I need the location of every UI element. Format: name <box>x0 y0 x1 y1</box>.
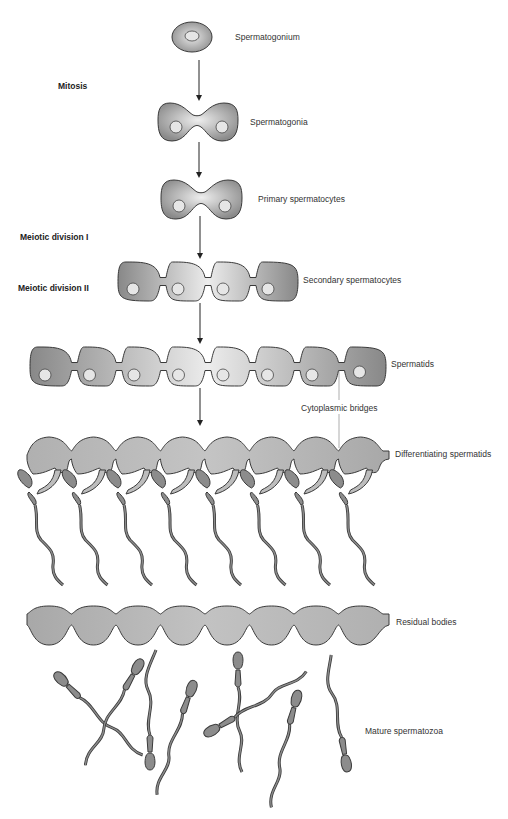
spermatozoon <box>78 657 147 766</box>
label-spermatids: Spermatids <box>391 359 434 369</box>
stage-label-mitosis: Mitosis <box>58 81 88 91</box>
primary-spermatocytes-cells <box>161 180 242 219</box>
nucleus <box>39 369 51 381</box>
label-secondary-spermatocytes: Secondary spermatocytes <box>303 275 401 285</box>
spermatozoon <box>149 679 199 795</box>
label-differentiating-spermatids: Differentiating spermatids <box>395 449 491 459</box>
nucleus <box>354 366 366 378</box>
nucleus <box>262 369 274 381</box>
stage-label-meiotic-division-2: Meiotic division II <box>18 283 89 293</box>
label-cytoplasmic-bridges: Cytoplasmic bridges <box>301 403 378 413</box>
secondary-spermatocytes-outline <box>118 262 298 301</box>
differentiating-spermatid <box>107 470 152 585</box>
differentiating-spermatid <box>151 470 196 585</box>
label-spermatogonia: Spermatogonia <box>250 117 308 127</box>
nucleus <box>173 369 185 381</box>
label-residual-bodies: Residual bodies <box>396 617 456 627</box>
nucleus <box>128 369 140 381</box>
nucleus <box>172 283 184 295</box>
differentiating-spermatid <box>18 470 63 585</box>
secondary-spermatocytes-cells <box>118 262 298 301</box>
spermatogenesis-diagram: Mitosis Meiotic division I Meiotic divis… <box>0 0 508 819</box>
nucleus <box>217 283 229 295</box>
residual-bodies-band <box>27 606 389 645</box>
differentiating-spermatid <box>62 470 107 585</box>
differentiating-spermatid <box>329 470 374 585</box>
nucleus <box>217 369 229 381</box>
spermatogonia-cells <box>158 103 238 141</box>
nucleus <box>306 369 318 381</box>
label-primary-spermatocytes: Primary spermatocytes <box>258 194 345 204</box>
spermatids-outline <box>30 347 386 386</box>
differentiating-band <box>27 437 389 474</box>
differentiating-spermatids <box>18 437 389 585</box>
label-mature-spermatozoa: Mature spermatozoa <box>365 726 443 736</box>
spermatozoon <box>322 655 352 773</box>
nucleus <box>127 283 139 295</box>
spermatozoon <box>263 689 304 807</box>
stage-label-meiotic-division-1: Meiotic division I <box>20 232 88 242</box>
mature-spermatozoa <box>51 650 352 808</box>
differentiating-spermatid <box>240 470 285 585</box>
nucleus <box>84 369 96 381</box>
differentiating-spermatid <box>196 470 241 585</box>
residual-bodies <box>27 606 389 645</box>
nucleus <box>262 283 274 295</box>
spermatogonium-cell <box>172 22 212 52</box>
spermatozoon <box>145 650 156 770</box>
differentiating-spermatid <box>285 470 330 585</box>
spermatids-cells <box>30 347 386 386</box>
label-spermatogonium: Spermatogonium <box>235 32 300 42</box>
